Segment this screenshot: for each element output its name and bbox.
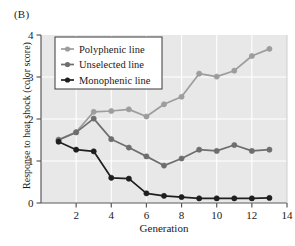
x-tick-label: 12 bbox=[246, 209, 257, 221]
data-point-marker bbox=[249, 148, 254, 153]
data-point-marker bbox=[91, 149, 96, 154]
line-chart: 246810121401234Polyphenic lineUnselected… bbox=[0, 0, 295, 246]
data-point-marker bbox=[267, 147, 272, 152]
y-axis-ticks: 01234 bbox=[28, 29, 41, 209]
data-point-marker bbox=[197, 196, 202, 201]
data-point-marker bbox=[249, 53, 254, 58]
x-tick-label: 10 bbox=[211, 209, 223, 221]
figure-panel-b: (B) Response to heat shock (color score)… bbox=[0, 0, 295, 246]
data-point-marker bbox=[214, 196, 219, 201]
x-tick-label: 4 bbox=[109, 209, 115, 221]
legend-label: Unselected line bbox=[79, 59, 144, 70]
data-point-marker bbox=[56, 139, 61, 144]
data-point-marker bbox=[267, 195, 272, 200]
x-tick-label: 6 bbox=[144, 209, 150, 221]
legend-marker-swatch bbox=[65, 46, 70, 51]
data-point-marker bbox=[214, 148, 219, 153]
data-point-marker bbox=[161, 193, 166, 198]
x-axis-ticks: 2468101214 bbox=[73, 203, 293, 221]
data-point-marker bbox=[126, 176, 131, 181]
data-point-marker bbox=[197, 71, 202, 76]
data-point-marker bbox=[214, 74, 219, 79]
legend-marker-swatch bbox=[65, 62, 70, 67]
data-point-marker bbox=[109, 137, 114, 142]
y-tick-label: 2 bbox=[28, 113, 34, 125]
data-point-marker bbox=[109, 175, 114, 180]
legend: Polyphenic lineUnselected lineMonophenic… bbox=[55, 37, 162, 89]
y-tick-label: 4 bbox=[28, 29, 34, 41]
y-tick-label: 1 bbox=[28, 155, 34, 167]
data-point-marker bbox=[197, 147, 202, 152]
data-point-marker bbox=[249, 196, 254, 201]
data-point-marker bbox=[179, 94, 184, 99]
data-point-marker bbox=[232, 196, 237, 201]
x-tick-label: 8 bbox=[179, 209, 185, 221]
data-point-marker bbox=[74, 147, 79, 152]
data-point-marker bbox=[126, 107, 131, 112]
data-point-marker bbox=[232, 68, 237, 73]
data-point-marker bbox=[161, 163, 166, 168]
data-point-marker bbox=[126, 145, 131, 150]
legend-marker-swatch bbox=[65, 77, 70, 82]
data-point-marker bbox=[179, 195, 184, 200]
data-point-marker bbox=[161, 102, 166, 107]
data-point-marker bbox=[144, 191, 149, 196]
y-tick-label: 0 bbox=[28, 197, 34, 209]
data-point-marker bbox=[232, 142, 237, 147]
legend-label: Monophenic line bbox=[79, 75, 151, 86]
x-tick-label: 2 bbox=[73, 209, 79, 221]
x-tick-label: 14 bbox=[282, 209, 294, 221]
data-point-marker bbox=[109, 108, 114, 113]
data-point-marker bbox=[91, 116, 96, 121]
data-point-marker bbox=[179, 156, 184, 161]
data-point-marker bbox=[74, 130, 79, 135]
data-point-marker bbox=[267, 46, 272, 51]
y-tick-label: 3 bbox=[28, 71, 34, 83]
data-point-marker bbox=[144, 154, 149, 159]
legend-label: Polyphenic line bbox=[79, 44, 145, 55]
data-point-marker bbox=[144, 114, 149, 119]
data-point-marker bbox=[91, 109, 96, 114]
